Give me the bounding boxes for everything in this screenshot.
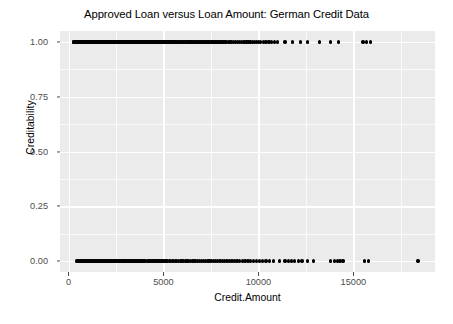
- x-tick-label: 0: [39, 277, 99, 287]
- scatter-point: [300, 259, 303, 262]
- x-tick-label: 10000: [228, 277, 288, 287]
- chart-container: Approved Loan versus Loan Amount: German…: [0, 0, 453, 324]
- scatter-point: [276, 40, 279, 43]
- scatter-point: [416, 259, 419, 262]
- y-tick-label: 0.00: [2, 256, 48, 266]
- y-tick-mark: [57, 151, 61, 152]
- gridline-y-minor: [60, 234, 435, 235]
- x-tick-mark: [258, 272, 259, 276]
- scatter-point: [341, 259, 344, 262]
- scatter-point: [264, 259, 267, 262]
- gridline-y-minor: [60, 179, 435, 180]
- gridline-y-major: [60, 206, 435, 207]
- y-tick-mark: [57, 260, 61, 261]
- scatter-point: [337, 40, 340, 43]
- x-tick-label: 5000: [133, 277, 193, 287]
- scatter-point: [367, 259, 370, 262]
- scatter-point: [283, 259, 286, 262]
- x-tick-mark: [163, 272, 164, 276]
- gridline-y-minor: [60, 124, 435, 125]
- plot-panel: [60, 31, 435, 272]
- scatter-point: [297, 259, 300, 262]
- scatter-point: [272, 259, 275, 262]
- scatter-point: [278, 259, 281, 262]
- y-tick-mark: [57, 41, 61, 42]
- x-tick-mark: [353, 272, 354, 276]
- scatter-point: [369, 40, 372, 43]
- scatter-point: [312, 259, 315, 262]
- scatter-point: [291, 40, 294, 43]
- scatter-point: [299, 40, 302, 43]
- x-axis-tick-labels: 050001000015000: [0, 277, 453, 291]
- gridline-y-minor: [60, 69, 435, 70]
- x-tick-label: 15000: [323, 277, 383, 287]
- scatter-point: [293, 259, 296, 262]
- scatter-point: [329, 40, 332, 43]
- scatter-point: [318, 40, 321, 43]
- gridline-y-major: [60, 97, 435, 98]
- scatter-point: [361, 40, 364, 43]
- y-tick-mark: [57, 206, 61, 207]
- scatter-point: [365, 40, 368, 43]
- chart-title: Approved Loan versus Loan Amount: German…: [0, 8, 453, 20]
- gridline-y-major: [60, 152, 435, 153]
- y-axis-title: Creditability: [25, 37, 36, 217]
- y-tick-mark: [57, 96, 61, 97]
- x-tick-mark: [68, 272, 69, 276]
- scatter-point: [261, 259, 264, 262]
- scatter-point: [283, 40, 286, 43]
- x-axis-title: Credit.Amount: [60, 292, 435, 303]
- scatter-point: [329, 259, 332, 262]
